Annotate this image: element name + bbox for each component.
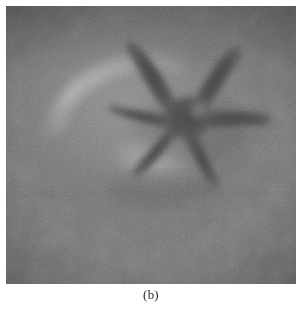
photograph-canvas — [6, 6, 296, 284]
film-grain-fine — [6, 6, 296, 284]
figure-container: (b) — [0, 0, 302, 309]
photograph — [6, 6, 296, 284]
figure-caption: (b) — [0, 286, 302, 304]
